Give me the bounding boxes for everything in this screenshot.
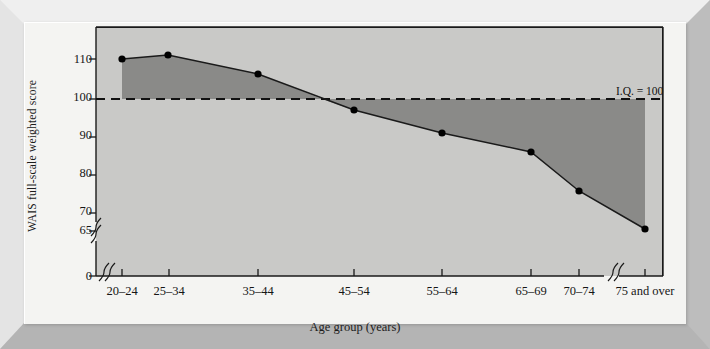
y-tick-marks bbox=[89, 59, 96, 276]
x-axis-break-icon-left bbox=[99, 263, 115, 281]
age-credit-region bbox=[322, 99, 645, 229]
x-axis-break-icon bbox=[608, 263, 624, 281]
chart-canvas: WAIS full-scale weighted score Age group… bbox=[0, 0, 710, 349]
data-point-70-74 bbox=[575, 187, 582, 194]
data-point-45-54 bbox=[350, 106, 357, 113]
chart-figure: WAIS full-scale weighted score Age group… bbox=[0, 0, 710, 349]
data-point-65-69 bbox=[527, 148, 534, 155]
data-point-25-34 bbox=[164, 51, 171, 58]
plot-vector-layer bbox=[0, 0, 710, 349]
data-point-20-24 bbox=[118, 55, 125, 62]
data-point-35-44 bbox=[254, 70, 261, 77]
data-point-75-and-over bbox=[641, 225, 648, 232]
x-tick-marks bbox=[122, 269, 645, 276]
age-debit-region bbox=[122, 55, 322, 99]
data-point-55-64 bbox=[438, 129, 445, 136]
